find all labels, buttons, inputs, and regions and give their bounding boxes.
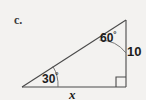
vertical-leg-label: 10 <box>127 45 141 58</box>
apex-angle-value: 60 <box>100 31 113 45</box>
right-angle-marker-icon <box>116 77 126 87</box>
left-angle-value: 30 <box>42 72 55 86</box>
left-angle-label: 30° <box>42 72 59 85</box>
right-triangle-diagram <box>0 0 146 100</box>
apex-angle-degree-symbol: ° <box>113 30 116 39</box>
apex-angle-label: 60° <box>100 31 117 44</box>
left-angle-degree-symbol: ° <box>55 71 58 80</box>
horizontal-leg-label: x <box>69 88 76 100</box>
